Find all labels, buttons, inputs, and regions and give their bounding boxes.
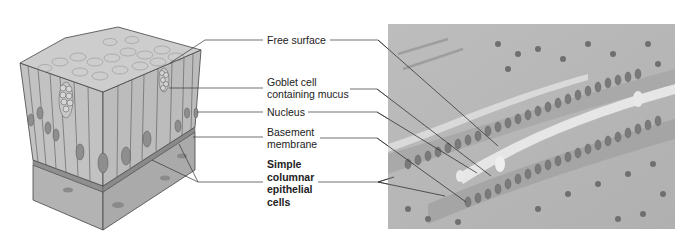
label-free-surface-text: Free surface [267,34,326,46]
label-nucleus-text: Nucleus [267,106,305,118]
photo-leader-lines [0,0,689,245]
label-basement-membrane-line1: Basement [267,126,317,138]
label-simple-columnar-line1: Simple [267,158,314,171]
label-basement-membrane: Basement membrane [266,126,318,150]
label-goblet-cell-line1: Goblet cell [267,76,349,88]
label-simple-columnar-line4: cells [267,196,314,209]
label-goblet-cell: Goblet cell containing mucus [266,76,350,100]
label-nucleus: Nucleus [266,106,306,118]
label-simple-columnar-line2: columnar [267,171,314,184]
label-simple-columnar-epithelial-cells: Simple columnar epithelial cells [266,158,315,208]
label-basement-membrane-line2: membrane [267,138,317,150]
label-free-surface: Free surface [266,34,327,46]
label-simple-columnar-line3: epithelial [267,183,314,196]
figure: Free surface Goblet cell containing mucu… [0,0,689,245]
label-goblet-cell-line2: containing mucus [267,88,349,100]
